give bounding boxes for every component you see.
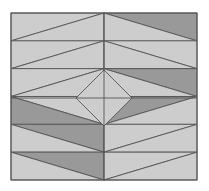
tiling-figure — [0, 0, 209, 191]
tiling-canvas — [0, 0, 209, 191]
